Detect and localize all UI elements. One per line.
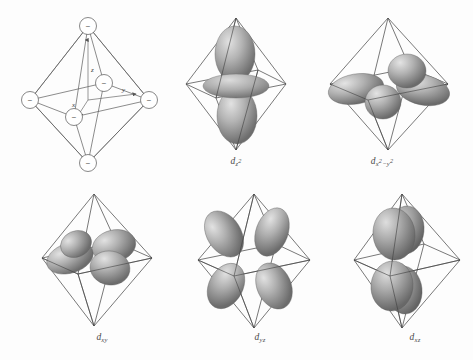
panel-dz2: dz2 [172, 8, 300, 158]
panel-dxz: dxz [350, 186, 473, 336]
charge-label: − [86, 159, 91, 168]
charge-back: − [96, 75, 113, 92]
dz2-torus [203, 74, 269, 98]
panel-dxy: dxy [32, 186, 172, 336]
dx2-y2-orbital-diagram [312, 8, 452, 158]
panel-dyz: dyz [190, 186, 330, 336]
dx2-y2-lobes [326, 54, 452, 119]
charge-label: − [72, 113, 77, 122]
charge-bottom: − [80, 155, 97, 172]
charge-top: − [80, 18, 97, 35]
dxy-lobes [43, 225, 140, 288]
charge-left: − [22, 92, 39, 109]
charge-front: − [66, 109, 83, 126]
ligand-field-diagram: z y x − − − − − [8, 4, 168, 180]
charge-label: − [28, 96, 33, 105]
charge-label: − [86, 22, 91, 31]
axis-label-z: z [90, 66, 94, 74]
axis-label-y: y [121, 86, 126, 94]
dxz-orbital-diagram [350, 186, 473, 336]
caption-dz2: dz2 [172, 156, 300, 166]
charge-label: − [147, 96, 152, 105]
dxz-lobes [369, 204, 427, 316]
caption-dxz: dxz [350, 332, 473, 342]
charge-right: − [141, 92, 158, 109]
dxy-orbital-diagram [32, 186, 172, 336]
dz2-orbital-diagram [172, 8, 300, 158]
caption-dyz: dyz [190, 332, 330, 342]
panel-dx2-y2: dx2−y2 [312, 8, 452, 158]
dyz-orbital-diagram [190, 186, 330, 336]
dz2-lobes [203, 26, 269, 144]
caption-dxy: dxy [32, 332, 172, 342]
d-orbitals-octahedral-field-figure: z y x − − − − − [0, 0, 473, 360]
panel-ligand-field: z y x − − − − − [8, 4, 168, 180]
charge-label: − [102, 79, 107, 88]
caption-dx2-y2: dx2−y2 [312, 156, 452, 166]
